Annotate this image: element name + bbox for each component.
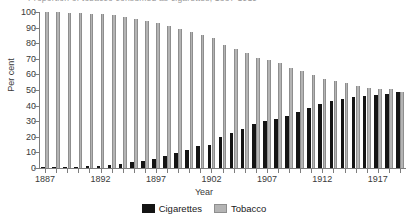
x-axis-tick-label: 1902 <box>201 174 221 184</box>
bar-group <box>41 12 52 168</box>
y-axis-tick-labels: 0102030405060708090100 <box>8 8 36 168</box>
bar-group <box>396 12 407 168</box>
bar-group <box>74 12 85 168</box>
y-axis-tick-label: 70 <box>8 54 36 63</box>
x-axis-tick-mark <box>89 169 90 173</box>
bar-cigarettes <box>341 99 345 168</box>
y-axis-tick-mark <box>34 106 40 107</box>
bar-cigarettes <box>152 159 156 168</box>
y-axis-tick-label: 60 <box>8 70 36 79</box>
bar-cigarettes <box>174 153 178 168</box>
bar-tobacco <box>278 63 282 168</box>
bar-cigarettes <box>330 101 334 168</box>
x-axis-tick-mark <box>345 169 346 173</box>
bar-cigarettes <box>97 166 101 168</box>
bar-group <box>330 12 341 168</box>
x-axis-tick-mark <box>101 169 102 173</box>
x-axis-tick-mark <box>112 169 113 173</box>
bar-group <box>274 12 285 168</box>
x-axis-tick-mark <box>267 169 268 173</box>
bar-group <box>86 12 97 168</box>
bar-cigarettes <box>318 104 322 168</box>
bar-tobacco <box>267 60 271 168</box>
bar-tobacco <box>312 75 316 168</box>
y-axis-tick-label: 90 <box>8 23 36 32</box>
bar-tobacco <box>178 29 182 168</box>
bar-group <box>285 12 296 168</box>
x-axis-tick-mark <box>400 169 401 173</box>
bar-group <box>385 12 396 168</box>
bar-cigarettes <box>41 167 45 168</box>
y-axis-tick-mark <box>34 137 40 138</box>
x-axis-tick-mark <box>123 169 124 173</box>
bar-cigarettes <box>196 146 200 168</box>
x-axis-tick-mark <box>145 169 146 173</box>
x-axis-tick-label: 1887 <box>35 174 55 184</box>
bar-cigarettes <box>274 119 278 168</box>
bar-cigarettes <box>263 121 267 168</box>
bar-tobacco <box>323 79 327 168</box>
bar-cigarettes <box>108 165 112 168</box>
x-axis-tick-label: 1897 <box>146 174 166 184</box>
x-axis-tick-mark <box>278 169 279 173</box>
bar-tobacco <box>367 88 371 168</box>
x-axis-tick-mark <box>289 169 290 173</box>
x-axis-tick-mark <box>45 169 46 173</box>
bar-cigarettes <box>86 166 90 168</box>
bar-cigarettes <box>74 167 78 168</box>
bar-group <box>141 12 152 168</box>
bar-tobacco <box>378 89 382 168</box>
bar-cigarettes <box>241 129 245 168</box>
y-axis-tick-mark <box>34 59 40 60</box>
bar-tobacco <box>234 49 238 168</box>
chart-title-strip: Proportion of tobacco consumed as cigare… <box>0 0 408 7</box>
chart-legend: CigarettesTobacco <box>0 203 408 214</box>
bar-tobacco <box>289 68 293 168</box>
bar-group <box>374 12 385 168</box>
bar-cigarettes <box>363 96 367 168</box>
y-axis-tick-label: 0 <box>8 164 36 173</box>
bar-tobacco <box>101 14 105 168</box>
y-axis-tick-mark <box>34 28 40 29</box>
bar-cigarettes <box>374 95 378 168</box>
bar-tobacco <box>245 53 249 168</box>
x-axis-tick-label: 1907 <box>257 174 277 184</box>
bar-cigarettes <box>352 97 356 168</box>
legend-item: Cigarettes <box>142 203 202 214</box>
chart-figure: Proportion of tobacco consumed as cigare… <box>0 0 408 222</box>
bar-group <box>152 12 163 168</box>
bar-tobacco <box>256 58 260 168</box>
bar-tobacco <box>201 35 205 168</box>
bar-tobacco <box>112 15 116 168</box>
y-axis-tick-mark <box>34 168 40 169</box>
chart-title: Proportion of tobacco consumed as cigare… <box>28 0 257 3</box>
bar-group <box>241 12 252 168</box>
bar-cigarettes <box>141 161 145 168</box>
bar-tobacco <box>400 92 404 168</box>
bar-group <box>130 12 141 168</box>
x-axis-tick-mark <box>389 169 390 173</box>
bar-tobacco <box>212 38 216 168</box>
y-axis-tick-label: 80 <box>8 39 36 48</box>
x-axis-tick-mark <box>333 169 334 173</box>
x-axis-tick-mark <box>178 169 179 173</box>
bar-cigarettes <box>230 133 234 168</box>
bar-cigarettes <box>119 164 123 168</box>
bar-cigarettes <box>185 150 189 168</box>
bar-tobacco <box>145 21 149 168</box>
y-axis-tick-mark <box>34 152 40 153</box>
bar-tobacco <box>134 19 138 168</box>
x-axis-tick-labels: 1887189218971902190719121917 <box>40 174 406 186</box>
legend-item: Tobacco <box>214 203 266 214</box>
bar-cigarettes <box>396 92 400 168</box>
bar-group <box>307 12 318 168</box>
bar-tobacco <box>300 71 304 169</box>
x-axis-tick-mark <box>223 169 224 173</box>
bar-group <box>163 12 174 168</box>
x-axis-tick-mark <box>367 169 368 173</box>
x-axis-tick-mark <box>356 169 357 173</box>
bar-tobacco <box>156 23 160 168</box>
y-axis-tick-label: 40 <box>8 101 36 110</box>
x-axis-tick-mark <box>234 169 235 173</box>
x-axis-tick-mark <box>189 169 190 173</box>
